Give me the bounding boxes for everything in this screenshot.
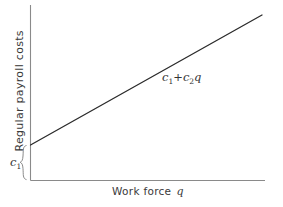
cost-line <box>31 15 263 145</box>
line-equation-label: c1+c2q <box>162 70 201 86</box>
x-axis-label-text: Work force <box>112 185 171 197</box>
x-axis-label: Work forceq <box>112 185 184 198</box>
intercept-label: c1 <box>10 155 21 171</box>
equation-operator: + <box>173 70 183 84</box>
x-axis-variable: q <box>171 185 183 198</box>
chart-canvas <box>0 0 283 207</box>
payroll-cost-chart: Regular payroll costs Work forceq c1+c2q… <box>0 0 283 207</box>
y-axis-label: Regular payroll costs <box>13 32 26 152</box>
intercept-sub: 1 <box>16 162 21 171</box>
equation-variable: q <box>194 70 201 84</box>
